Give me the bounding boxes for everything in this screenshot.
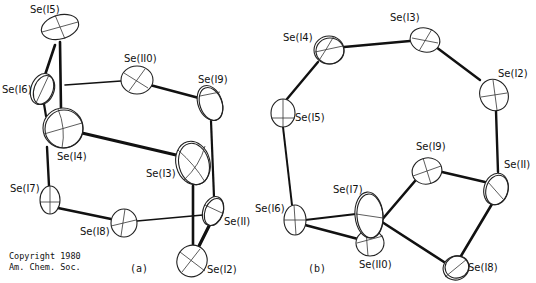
atom-se15-b [271,99,295,127]
atom-se13-a [171,137,215,188]
label-se15-b: Se(I5) [295,112,325,123]
atom-se13-b [407,25,442,56]
label-se11-a: Se(II) [224,216,250,227]
label-se15-a: Se(I5) [30,4,60,15]
atom-se11-b [480,170,511,207]
label-se12-a: Se(I2) [207,264,237,275]
label-se19-b: Se(I9) [416,141,446,152]
atom-se110-a [121,66,153,94]
label-se14-a: Se(I4) [57,151,87,162]
label-se110-b: Se(II0) [359,259,392,270]
atom-se14-b [314,36,344,64]
atom-se18-a [111,209,137,237]
label-se13-a: Se(I3) [146,168,176,179]
copyright-line-1: Copyright 1980 [9,251,81,261]
label-se18-a: Se(I8) [80,226,110,237]
panel-b: Se(I4) Se(I3) Se(I2) Se(I5) Se(I9) Se(II… [255,12,530,283]
panel-a-label: (a) [130,263,148,274]
label-se17-b: Se(I7) [333,184,363,195]
atom-se12-a [172,240,213,282]
label-se11-b: Se(II) [504,159,530,170]
atom-se16-b [284,205,306,235]
label-se17-a: Se(I7) [10,183,40,194]
panel-b-bonds [283,41,498,262]
atom-se19-a [193,82,228,124]
atom-se15-a [39,10,82,43]
label-se14-b: Se(I4) [283,32,313,43]
label-se12-b: Se(I2) [498,68,528,79]
label-se16-b: Se(I6) [255,203,285,214]
panel-a: Se(I5) Se(I6) Se(II0) Se(I9) Se(I4) Se(I… [2,4,250,282]
label-se16-a: Se(I6) [2,84,32,95]
copyright-line-2: Am. Chem. Soc. [9,262,81,272]
label-se19-a: Se(I9) [198,74,228,85]
label-se110-a: Se(II0) [124,53,157,64]
label-se13-b: Se(I3) [390,12,420,23]
atom-se17-a [40,186,60,214]
atom-se14-a [43,108,83,148]
atom-se17-b [353,191,385,239]
se10-molecular-structure-figure: Se(I5) Se(I6) Se(II0) Se(I9) Se(I4) Se(I… [0,0,536,283]
panel-b-label: (b) [308,263,326,274]
label-se18-b: Se(I8) [468,262,498,273]
